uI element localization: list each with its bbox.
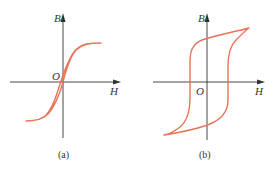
panel-a: B O H (a) bbox=[10, 12, 121, 161]
h-axis-arrow-icon bbox=[257, 80, 265, 85]
origin-label-a: O bbox=[52, 70, 60, 82]
b-axis-arrow-icon bbox=[61, 13, 66, 22]
b-axis-label-b: B bbox=[198, 12, 205, 24]
h-axis-label-b: H bbox=[254, 85, 264, 97]
origin-label-b: O bbox=[196, 85, 204, 97]
h-axis-arrow-icon bbox=[113, 80, 121, 85]
h-axis-label-a: H bbox=[109, 85, 119, 97]
b-axis-label-a: B bbox=[54, 12, 61, 24]
caption-a: (a) bbox=[58, 149, 69, 161]
hysteresis-loop-b bbox=[164, 28, 249, 135]
b-axis-arrow-icon bbox=[205, 13, 210, 22]
panel-b: B O H (b) bbox=[153, 12, 265, 161]
hysteresis-figure: B O H (a) B O H (b) bbox=[0, 0, 275, 171]
caption-b: (b) bbox=[199, 149, 211, 161]
